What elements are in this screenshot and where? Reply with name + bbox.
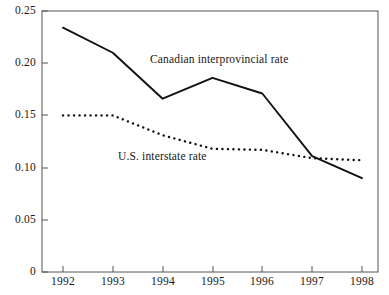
y-tick-label-0.05: 0.05 [0, 213, 36, 225]
x-tick-label-1996: 1996 [237, 275, 287, 287]
line-chart-plot [0, 0, 389, 295]
y-tick-label-0.15: 0.15 [0, 108, 36, 120]
x-tick-label-1994: 1994 [138, 275, 188, 287]
series-label-us-interstate-rate: U.S. interstate rate [118, 150, 207, 162]
x-tick-label-1998: 1998 [337, 275, 387, 287]
y-tick-label-0.20: 0.20 [0, 56, 36, 68]
series-label-canadian-interprovincial-rate: Canadian interprovincial rate [150, 53, 288, 65]
chart-figure: 0 0.05 0.10 0.15 0.20 0.25 1992 1993 199… [0, 0, 389, 295]
y-axis-ticks [42, 11, 48, 272]
x-tick-label-1993: 1993 [88, 275, 138, 287]
x-tick-label-1992: 1992 [38, 275, 88, 287]
y-tick-label-0.10: 0.10 [0, 161, 36, 173]
y-tick-label-0: 0 [0, 265, 36, 277]
x-axis-ticks [63, 266, 362, 272]
plot-frame [42, 11, 378, 272]
y-tick-label-0.25: 0.25 [0, 4, 36, 16]
series-line-canadian-interprovincial-rate [63, 28, 362, 178]
x-tick-label-1995: 1995 [188, 275, 238, 287]
series-line-us-interstate-rate [63, 115, 362, 160]
x-tick-label-1997: 1997 [287, 275, 337, 287]
